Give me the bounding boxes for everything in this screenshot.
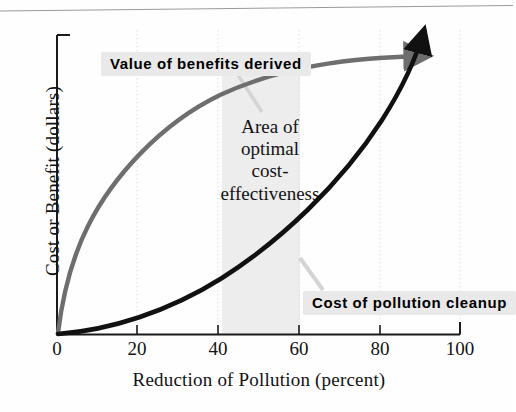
area-note-line-3: cost-: [196, 160, 344, 182]
y-axis-title: Cost or Benefit (dollars): [42, 56, 64, 306]
optimal-area-note: Area of optimal cost- effectiveness: [196, 116, 344, 205]
x-tick-label-20: 20: [114, 338, 160, 360]
x-tick-label-0: 0: [34, 338, 80, 360]
area-note-line-4: effectiveness: [196, 183, 344, 205]
cost-callout-label: Cost of pollution cleanup: [303, 291, 516, 315]
x-tick-label-40: 40: [195, 338, 241, 360]
cost-leader-line: [300, 258, 323, 290]
x-axis-title: Reduction of Pollution (percent): [57, 369, 461, 391]
x-tick-label-60: 60: [276, 338, 322, 360]
x-tick-label-80: 80: [357, 338, 403, 360]
benefits-callout-label: Value of benefits derived: [101, 52, 311, 76]
area-note-line-1: Area of: [196, 116, 344, 138]
area-note-line-2: optimal: [196, 138, 344, 160]
x-tick-label-100: 100: [437, 338, 483, 360]
